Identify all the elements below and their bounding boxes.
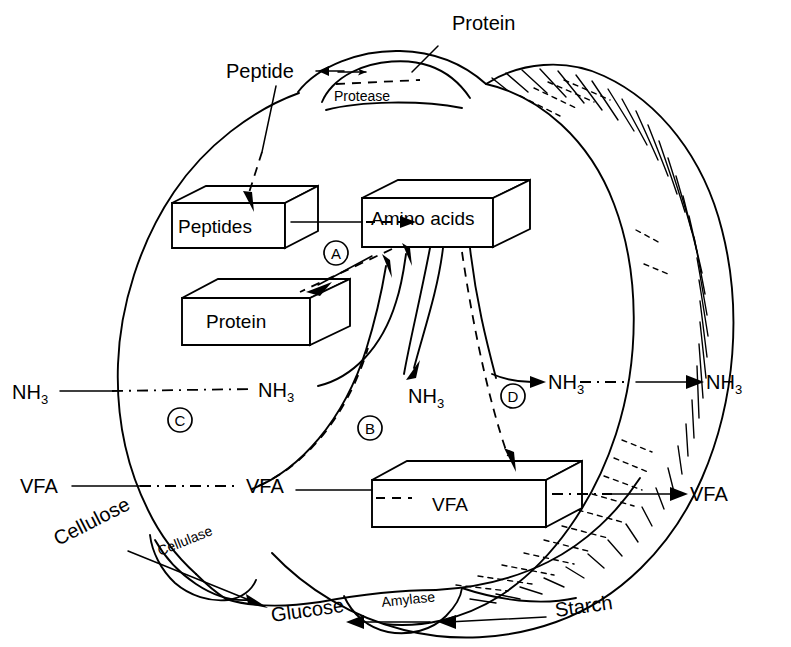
vfa-outer-right-label: VFA <box>690 483 728 505</box>
peptides-box-label: Peptides <box>178 216 252 237</box>
vfa-right-arrowhead <box>670 487 688 501</box>
starch-arrowhead-1 <box>438 615 456 629</box>
svg-text:NH3: NH3 <box>408 385 444 411</box>
svg-text:NH3: NH3 <box>706 371 742 397</box>
glucose-arrowhead <box>346 615 364 629</box>
peptides-box: Peptides <box>172 186 318 248</box>
protease-label: Protease <box>334 88 390 104</box>
svg-text:NH3: NH3 <box>12 381 48 407</box>
nh3-outer-left: NH3 <box>12 381 48 407</box>
peptide-outer-label: Peptide <box>226 60 294 82</box>
peptide-arrowhead <box>318 66 329 76</box>
protein-outer-label: Protein <box>452 12 515 34</box>
marker-c-label: C <box>175 412 186 429</box>
vfa-outer-left-label: VFA <box>20 475 58 497</box>
marker-b-label: B <box>365 420 375 437</box>
amino-acids-box: Amino acids <box>362 180 530 247</box>
rumen-diagram-svg: Peptides Amino acids Protein VFA A <box>0 0 791 647</box>
marker-b-dashed <box>258 348 368 486</box>
cellulase-label: Cellulase <box>155 522 215 558</box>
marker-d-to-nh3 <box>492 374 532 382</box>
marker-b-arrowhead <box>382 254 392 278</box>
nh3-right-inner: NH3 <box>548 371 584 397</box>
marker-d-curve-right <box>470 248 496 378</box>
vfa-box-label: VFA <box>432 494 468 515</box>
vfa-inner-left-label: VFA <box>246 475 284 497</box>
amino-acids-box-label: Amino acids <box>371 208 475 229</box>
marker-d-nh3-arrowhead <box>530 376 546 388</box>
vfa-box: VFA <box>372 461 582 527</box>
nh3-inner-left: NH3 <box>258 379 294 405</box>
starch-label: Starch <box>553 591 613 621</box>
cellulose-label: Cellulose <box>50 493 133 550</box>
svg-text:NH3: NH3 <box>548 371 584 397</box>
peptide-label-leader <box>262 86 276 152</box>
starch-to-glucose-line-1 <box>448 617 546 622</box>
marker-d-label: D <box>508 388 519 405</box>
rumen-outer-wall <box>272 51 733 638</box>
cellulose-to-glucose-arrowhead <box>246 594 268 608</box>
nh3-center: NH3 <box>408 385 444 411</box>
diagram-canvas: Peptides Amino acids Protein VFA A <box>0 0 791 647</box>
nh3-outer-right: NH3 <box>706 371 742 397</box>
marker-d-dashed-to-vfa <box>462 252 508 456</box>
svg-text:NH3: NH3 <box>258 379 294 405</box>
aa-to-nh3-center-arrowhead <box>406 360 420 380</box>
protein-box-label: Protein <box>206 311 266 332</box>
marker-c-dashdot <box>112 389 254 391</box>
glucose-label: Glucose <box>269 594 345 626</box>
marker-a-label: A <box>331 245 341 262</box>
